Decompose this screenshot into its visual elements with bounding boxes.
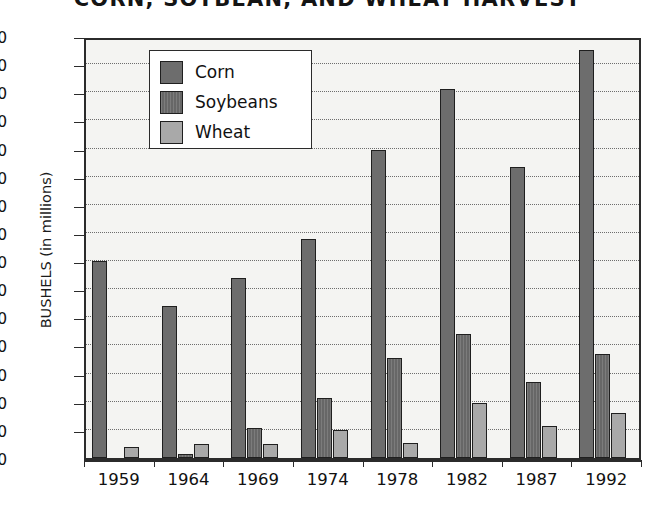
bar-group [371,40,418,458]
bar-soybeans-1987 [526,382,541,458]
plot-area: Corn Soybeans Wheat [84,38,641,460]
y-tick-mark [74,347,84,348]
legend-swatch-soybeans [160,91,183,114]
x-tick-mark [154,460,155,467]
bar-wheat-1964 [194,444,209,458]
bar-wheat-1987 [542,426,557,458]
legend-item-corn: Corn [160,57,311,87]
y-tick-label: 20 [0,395,7,413]
x-tick-label: 1987 [497,470,577,489]
legend-swatch-corn [160,61,183,84]
legend-swatch-wheat [160,121,183,144]
x-tick-mark [293,460,294,467]
y-tick-label: 150 [0,29,7,47]
bar-wheat-1992 [611,413,626,458]
x-tick-mark [571,460,572,467]
bar-soybeans-1964 [178,454,193,458]
y-tick-label: 90 [0,198,7,216]
y-tick-label: 130 [0,85,7,103]
y-tick-mark [74,235,84,236]
y-tick-label: 100 [0,170,7,188]
y-axis-title: BUSHELS (in millions) [38,125,54,375]
bar-wheat-1982 [472,403,487,458]
y-tick-mark [74,432,84,433]
x-tick-label: 1964 [148,470,228,489]
bar-corn-1964 [162,306,177,458]
bar-wheat-1978 [403,443,418,458]
x-tick-mark [641,460,642,467]
y-tick-mark [74,319,84,320]
x-tick-label: 1959 [79,470,159,489]
bar-wheat-1974 [333,430,348,458]
y-tick-mark [74,404,84,405]
bar-group [579,40,626,458]
y-tick-label: 140 [0,57,7,75]
y-tick-label: 120 [0,113,7,131]
x-tick-mark [363,460,364,467]
y-tick-mark [74,179,84,180]
x-tick-label: 1978 [357,470,437,489]
bar-group [92,40,139,458]
bar-group [510,40,557,458]
bar-corn-1974 [301,239,316,458]
legend-label-wheat: Wheat [195,122,250,142]
y-tick-mark [74,38,84,39]
y-tick-label: 10 [0,423,7,441]
legend-label-corn: Corn [195,62,235,82]
y-tick-mark [74,151,84,152]
x-tick-label: 1969 [218,470,298,489]
x-tick-label: 1974 [288,470,368,489]
y-tick-mark [74,66,84,67]
bar-corn-1959 [92,261,107,458]
bar-corn-1978 [371,150,386,458]
bar-soybeans-1974 [317,398,332,458]
bar-soybeans-1978 [387,358,402,458]
bar-corn-1982 [440,89,455,458]
y-tick-label: 0 [0,451,7,469]
y-tick-mark [74,263,84,264]
x-tick-mark [432,460,433,467]
x-tick-label: 1992 [566,470,646,489]
bar-wheat-1969 [263,444,278,458]
y-tick-label: 40 [0,338,7,356]
y-tick-mark [74,376,84,377]
bar-corn-1992 [579,50,594,458]
y-tick-label: 80 [0,226,7,244]
bar-corn-1987 [510,167,525,458]
y-tick-label: 70 [0,254,7,272]
y-tick-mark [74,94,84,95]
y-tick-mark [74,291,84,292]
bar-soybeans-1982 [456,334,471,458]
chart-title: CORN, SOYBEAN, AND WHEAT HARVEST [0,0,655,11]
x-tick-label: 1982 [427,470,507,489]
legend-item-soybeans: Soybeans [160,87,311,117]
bar-wheat-1959 [124,447,139,458]
bar-corn-1969 [231,278,246,458]
legend-item-wheat: Wheat [160,117,311,147]
x-tick-mark [84,460,85,467]
y-tick-label: 50 [0,310,7,328]
legend-label-soybeans: Soybeans [195,92,278,112]
bar-soybeans-1992 [595,354,610,458]
y-tick-label: 30 [0,367,7,385]
y-tick-label: 60 [0,282,7,300]
chart-legend: Corn Soybeans Wheat [149,50,312,149]
y-tick-mark [74,122,84,123]
x-tick-mark [502,460,503,467]
bar-group [440,40,487,458]
bar-soybeans-1969 [247,428,262,458]
y-tick-label: 110 [0,142,7,160]
x-tick-mark [223,460,224,467]
y-tick-mark [74,207,84,208]
bar-chart-figure: CORN, SOYBEAN, AND WHEAT HARVEST BUSHELS… [0,0,655,516]
